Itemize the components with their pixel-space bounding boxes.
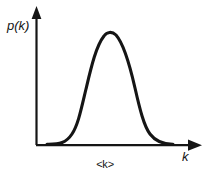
figure-root: p(k) k <k> xyxy=(0,0,212,179)
y-axis-label: p(k) xyxy=(7,19,29,32)
distribution-curve xyxy=(47,32,173,144)
x-axis-arrow-icon xyxy=(188,140,202,151)
mean-degree-label-text: <k> xyxy=(96,158,114,170)
y-axis-arrow-icon xyxy=(32,6,42,19)
plot-canvas xyxy=(0,0,212,179)
mean-degree-label: <k> xyxy=(0,159,212,170)
